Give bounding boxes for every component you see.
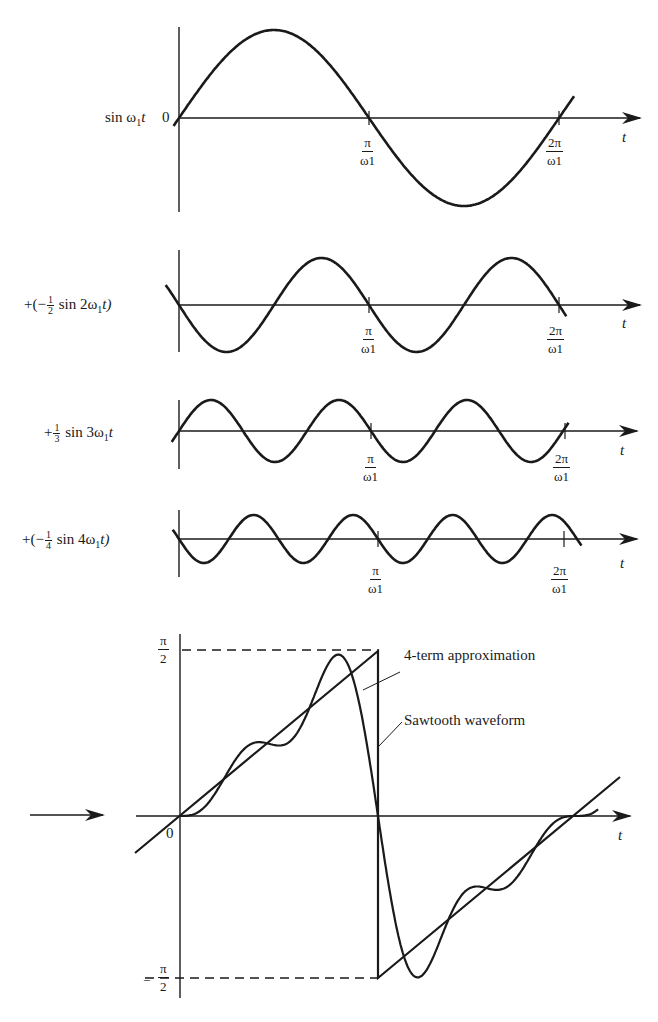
origin-label: 0	[162, 110, 170, 125]
t-axis-label: t	[620, 443, 624, 458]
tick-label-2pi-w1: 2πω1	[551, 564, 568, 595]
t-axis-label: t	[622, 316, 626, 331]
y-label-neg-pi-over-2: π2	[158, 962, 169, 993]
tick-label-pi-w1: πω1	[360, 136, 375, 167]
y-label-neg-sign: −	[143, 974, 150, 987]
t-axis-label: t	[620, 556, 624, 571]
callout-leader-sawtooth	[379, 722, 402, 746]
tick-label-pi-w1: πω1	[361, 324, 376, 355]
origin-label: 0	[166, 826, 174, 841]
label-sin-3w1t: +13 sin 3ω1t	[44, 423, 113, 444]
panel-1-axes	[179, 27, 640, 212]
tick-label-2pi-w1: 2πω1	[546, 136, 563, 167]
tick-label-pi-w1: πω1	[368, 564, 383, 595]
label-sin-4w1t: +(−14 sin 4ω1t)	[22, 530, 109, 551]
label-sin-2w1t: +(−12 sin 2ω1t)	[24, 295, 111, 316]
y-label-pi-over-2: π2	[158, 634, 169, 665]
callout-leader-approx	[363, 672, 400, 690]
panel-4-axes	[179, 510, 637, 577]
callout-sawtooth-waveform: Sawtooth waveform	[404, 713, 525, 728]
panel-2-axes	[179, 250, 640, 352]
label-sin-w1t: sin ω1t	[105, 110, 145, 128]
tick-label-pi-w1: πω1	[363, 452, 378, 483]
tick-label-2pi-w1: 2πω1	[553, 452, 570, 483]
tick-label-2pi-w1: 2πω1	[547, 324, 564, 355]
t-axis-label: t	[622, 130, 626, 145]
t-axis-label: t	[618, 828, 622, 843]
callout-4-term-approximation: 4-term approximation	[404, 648, 535, 663]
result-axes	[30, 634, 630, 998]
